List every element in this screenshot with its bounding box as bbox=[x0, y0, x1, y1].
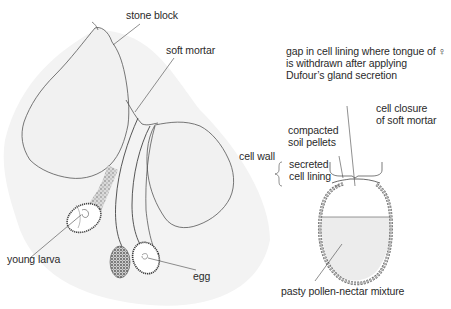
label-compacted-soil-pellets: compacted soil pellets bbox=[288, 124, 338, 148]
label-egg: egg bbox=[193, 270, 210, 282]
label-pollen-nectar-mixture: pasty pollen-nectar mixture bbox=[281, 285, 404, 297]
label-young-larva: young larva bbox=[7, 253, 60, 265]
label-stone-block: stone block bbox=[126, 9, 178, 21]
label-secreted-cell-lining: secreted cell lining bbox=[289, 158, 331, 182]
label-gap-in-cell-lining: gap in cell lining where tongue of ♀ is … bbox=[286, 45, 446, 81]
label-cell-wall: cell wall bbox=[239, 150, 275, 162]
label-soft-mortar: soft mortar bbox=[166, 44, 215, 56]
label-cell-closure: cell closure of soft mortar bbox=[376, 102, 436, 126]
